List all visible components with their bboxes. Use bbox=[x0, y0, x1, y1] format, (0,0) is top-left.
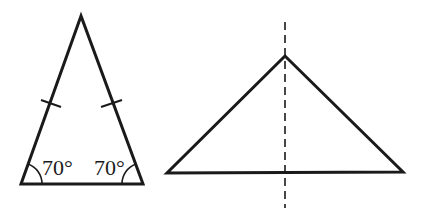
symmetric-triangle bbox=[167, 22, 403, 208]
diagram-canvas: 70° 70° bbox=[0, 0, 428, 213]
angle-label-left: 70° bbox=[42, 155, 73, 180]
angle-arc-left bbox=[28, 164, 42, 184]
angle-label-right: 70° bbox=[94, 155, 125, 180]
isosceles-triangle: 70° 70° bbox=[21, 16, 143, 184]
